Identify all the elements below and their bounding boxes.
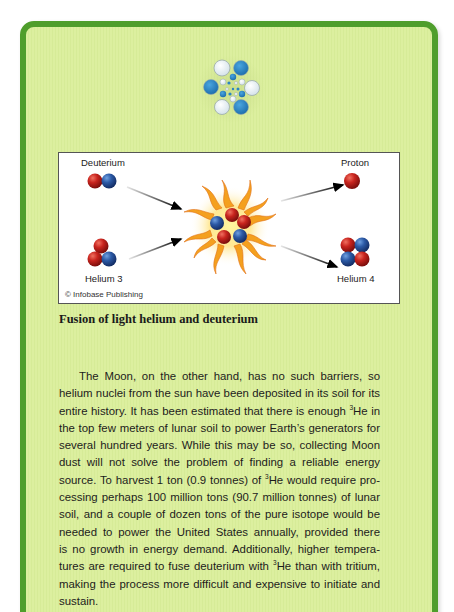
text-line: making the process more difficult and ex…: [59, 576, 380, 593]
text-line: entire history. It has been estimated th…: [59, 403, 380, 420]
text-line: The Moon, on the other hand, has no such…: [59, 368, 380, 385]
isotope-superscript: 3: [273, 559, 277, 566]
sun-fusion-icon: [184, 180, 276, 274]
helium4-nucleus-icon: [341, 238, 370, 267]
text-line: tures are required to fuse deuterium wit…: [59, 558, 380, 575]
text-line: dust will not solve the problem of findi…: [59, 454, 380, 471]
fusion-diagram: Deuterium Helium 3 Proton Helium 4 © Inf…: [58, 152, 400, 304]
text-line: cessing perhaps 100 million tons (90.7 m…: [59, 489, 380, 506]
label-helium3: Helium 3: [85, 273, 123, 284]
text-line: the top few meters of lunar soil to powe…: [59, 420, 380, 437]
label-deuterium: Deuterium: [81, 157, 125, 168]
isotope-superscript: 3: [265, 473, 269, 480]
text-line: several hundred years. While this may be…: [59, 437, 380, 454]
image-credit: © Infobase Publishing: [65, 290, 143, 299]
label-proton: Proton: [341, 157, 369, 168]
text-line: helium nuclei from the sun have been dep…: [59, 385, 380, 402]
proton-icon: [344, 173, 360, 189]
text-line: soil, and a couple of dozen tons of the …: [59, 506, 380, 523]
figure-caption: Fusion of light helium and deuterium: [59, 312, 258, 327]
deuterium-nucleus-icon: [88, 174, 117, 189]
text-line: needed to power the United States annual…: [59, 524, 380, 541]
atom-cluster-icon: [196, 53, 266, 123]
text-line: source. To harvest 1 ton (0.9 tonnes) of…: [59, 472, 380, 489]
text-line: is no growth in energy demand. Additiona…: [59, 541, 380, 558]
label-helium4: Helium 4: [337, 273, 375, 284]
body-paragraph: The Moon, on the other hand, has no such…: [59, 368, 380, 610]
helium3-nucleus-icon: [88, 239, 117, 267]
text-line: sustain.: [59, 593, 380, 610]
isotope-superscript: 3: [349, 404, 353, 411]
